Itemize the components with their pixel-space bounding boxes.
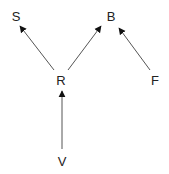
node-f: F bbox=[151, 74, 159, 87]
edge-r-to-s bbox=[20, 26, 54, 70]
node-b: B bbox=[107, 10, 116, 23]
node-r: R bbox=[56, 74, 65, 87]
node-v: V bbox=[58, 155, 67, 168]
node-s: S bbox=[12, 10, 21, 23]
edge-r-to-b bbox=[68, 26, 101, 70]
edge-f-to-b bbox=[119, 28, 150, 70]
graph-edges bbox=[0, 0, 169, 174]
